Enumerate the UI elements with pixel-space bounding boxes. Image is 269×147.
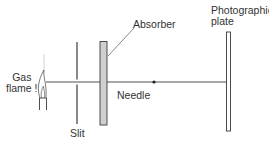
needle-dot [152, 80, 155, 83]
photographic-plate [227, 32, 231, 131]
absorber-plate [100, 42, 107, 126]
absorber-leader-line [108, 28, 134, 56]
photographic-plate-label-line2: plate [211, 16, 269, 27]
gas-flame-icon [38, 54, 46, 110]
photographic-plate-label: Photographic plate [211, 5, 269, 27]
slit-label: Slit [70, 128, 85, 139]
gas-flame-label-line2: flame ! [6, 83, 38, 94]
absorber-label: Absorber [133, 19, 176, 30]
needle-label: Needle [117, 90, 150, 101]
gas-flame-label: Gas flame ! [6, 72, 38, 94]
